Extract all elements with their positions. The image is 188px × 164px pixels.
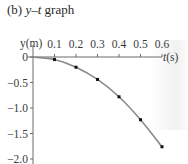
y-tick-label: −1.0 [7,102,28,114]
data-point [53,58,56,61]
y-tick-label: 0 [22,51,28,63]
y-tick-label: −2.0 [7,153,28,164]
x-tick-label: 0.2 [69,38,84,50]
y-t-chart: y(m)t(s)0.10.20.30.40.50.60−0.5−1.0−1.5−… [0,0,188,164]
x-tick-label: 0.5 [133,38,148,50]
x-axis-label: t(s) [163,51,179,64]
y-tick-label: −0.5 [7,77,28,89]
x-tick-label: 0.6 [155,38,170,50]
data-point [96,78,99,81]
x-tick-label: 0.4 [112,38,127,50]
data-curve [33,57,162,147]
data-point [75,66,78,69]
data-point [118,95,121,98]
x-tick-label: 0.1 [47,38,62,50]
data-point [139,118,142,121]
data-point [161,145,164,148]
y-axis-label: y(m) [20,37,43,50]
y-tick-label: −1.5 [7,128,28,140]
x-tick-label: 0.3 [90,38,105,50]
